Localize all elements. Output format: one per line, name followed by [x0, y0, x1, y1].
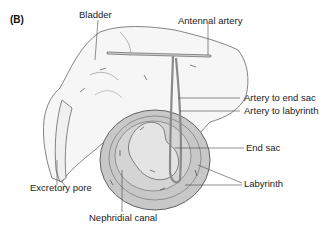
label-antennal-artery: Antennal artery — [178, 16, 242, 26]
label-labyrinth: Labyrinth — [244, 179, 283, 189]
label-nephridial-canal: Nephridial canal — [89, 213, 157, 223]
panel-label: (B) — [10, 14, 24, 25]
label-bladder: Bladder — [79, 10, 112, 20]
label-excretory-pore: Excretory pore — [30, 183, 92, 193]
label-end-sac: End sac — [246, 143, 280, 153]
label-artery-to-labyrinth: Artery to labyrinth — [244, 106, 318, 116]
label-artery-to-end-sac: Artery to end sac — [244, 93, 316, 103]
